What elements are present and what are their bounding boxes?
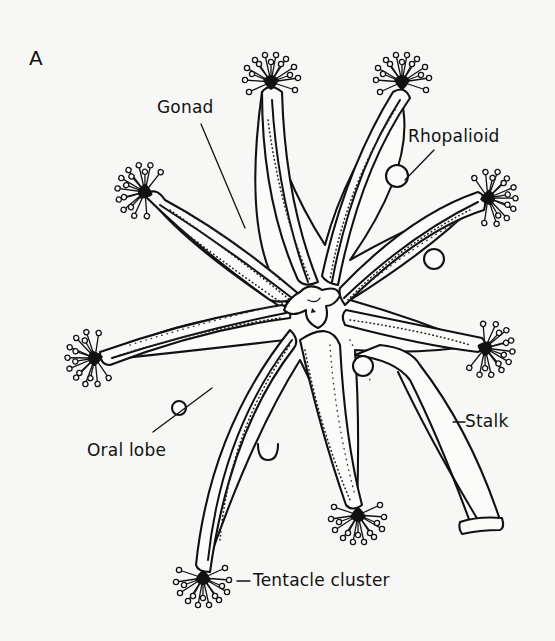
stalk	[355, 345, 500, 523]
gonad-leader-line	[201, 124, 245, 228]
rhopalioid-bottom	[258, 444, 278, 460]
tentacle-cluster-icon	[328, 502, 386, 544]
label-oral-lobe: Oral lobe	[87, 442, 166, 459]
rhopalioid-right	[424, 249, 444, 269]
tentacle-cluster-icon	[107, 154, 167, 223]
label-rhopalioid: Rhopalioid	[408, 128, 500, 145]
tentacle-cluster-icon	[173, 565, 231, 607]
rhopalioid-leader-line	[405, 150, 434, 180]
tentacle-cluster-icon	[373, 52, 431, 94]
label-gonad: Gonad	[157, 99, 214, 116]
oral-lobe-leader-line	[153, 388, 212, 432]
label-tentacle-cluster: Tentacle cluster	[253, 572, 390, 589]
rhopalioid-lower-right	[353, 356, 373, 376]
panel-label: A	[29, 48, 43, 68]
jellyfish-figure: A Gonad Rhopalioid Oral lobe Stalk Tenta…	[0, 0, 555, 641]
jellyfish-illustration	[0, 0, 555, 641]
label-stalk: Stalk	[465, 413, 508, 430]
tentacle-cluster-icon	[242, 52, 300, 94]
rhopalioid-upper	[386, 165, 408, 187]
